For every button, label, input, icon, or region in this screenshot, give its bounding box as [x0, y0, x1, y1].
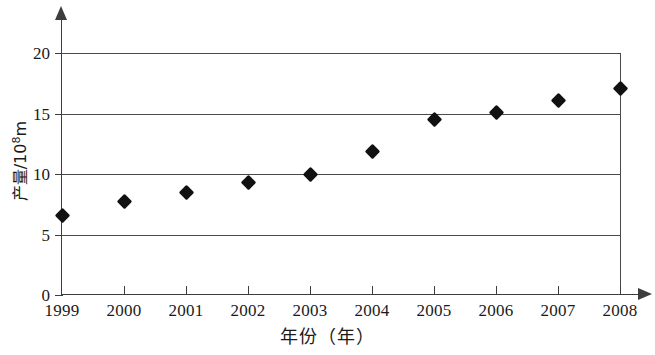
y-axis-title-unit: m: [11, 121, 30, 137]
x-tick-2005: [434, 286, 435, 295]
data-point-2001: [178, 184, 194, 200]
data-point-1999: [54, 207, 70, 223]
data-point-2008: [612, 80, 628, 96]
x-tick-label-2003: 2003: [279, 301, 341, 321]
y-axis-title-base: 产量/10: [11, 144, 30, 202]
y-tick-label-20: 20: [20, 45, 50, 62]
gridline-10: [62, 174, 620, 175]
x-tick-2008: [620, 286, 621, 295]
x-tick-label-2005: 2005: [403, 301, 465, 321]
x-tick-2001: [186, 286, 187, 295]
data-point-2002: [240, 175, 256, 191]
x-tick-label-2002: 2002: [217, 301, 279, 321]
y-axis-title: 产量/108m: [8, 86, 30, 236]
plot-area: [62, 53, 620, 295]
production-by-year-scatter-chart: 05101520 1999200020012002200320042005200…: [0, 0, 655, 355]
x-tick-2000: [124, 286, 125, 295]
x-tick-2004: [372, 286, 373, 295]
y-axis-title-exponent: 8: [10, 137, 23, 144]
data-point-2003: [302, 166, 318, 182]
gridline-20: [62, 53, 620, 54]
data-point-2007: [550, 92, 566, 108]
y-tick-0: [55, 295, 63, 296]
gridline-5: [62, 235, 620, 236]
x-tick-label-2006: 2006: [465, 301, 527, 321]
x-tick-2003: [310, 286, 311, 295]
x-tick-2002: [248, 286, 249, 295]
x-tick-label-2008: 2008: [589, 301, 651, 321]
x-tick-label-2007: 2007: [527, 301, 589, 321]
data-point-2006: [488, 105, 504, 121]
x-tick-label-2000: 2000: [93, 301, 155, 321]
x-tick-2006: [496, 286, 497, 295]
x-axis-title: 年份（年）: [0, 326, 655, 348]
x-axis-arrow-icon: [638, 288, 652, 300]
data-point-2004: [364, 143, 380, 159]
gridline-15: [62, 114, 620, 115]
x-tick-label-1999: 1999: [31, 301, 93, 321]
data-point-2000: [116, 194, 132, 210]
y-axis-arrow-icon: [55, 6, 67, 20]
x-tick-label-2004: 2004: [341, 301, 403, 321]
x-tick-label-2001: 2001: [155, 301, 217, 321]
x-tick-2007: [558, 286, 559, 295]
